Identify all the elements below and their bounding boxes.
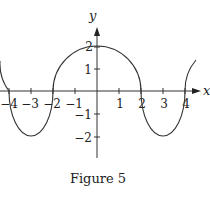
figure-plot: x y −4 −3 −2 −1 1 2 3 4 2 1 −1 −2 — [0, 0, 210, 198]
y-tick-label: −1 — [74, 108, 92, 122]
y-axis-arrow-icon — [94, 27, 100, 36]
x-axis-label: x — [203, 83, 210, 98]
y-tick-labels: 2 1 −1 −2 — [74, 40, 93, 145]
x-tick-label: 3 — [160, 97, 168, 111]
curve-left-rising-segment — [0, 61, 9, 91]
x-axis-arrow-icon — [192, 88, 201, 94]
y-tick-label: 1 — [84, 63, 92, 77]
x-tick-labels: −4 −3 −2 −1 1 2 3 4 — [0, 97, 190, 111]
x-tick-label: −3 — [21, 97, 39, 111]
y-axis-label: y — [88, 8, 97, 23]
figure-caption: Figure 5 — [0, 171, 196, 186]
x-tick-label: 1 — [116, 97, 124, 111]
curve-right-rising-segment — [185, 60, 196, 91]
y-tick-label: −2 — [74, 131, 92, 145]
